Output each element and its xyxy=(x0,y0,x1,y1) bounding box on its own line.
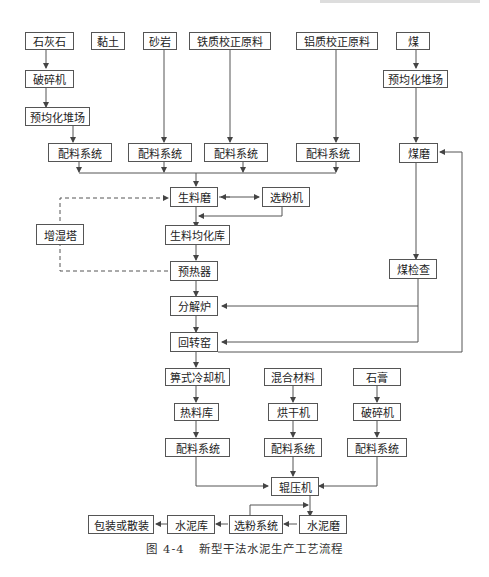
node-prehomogenization-1: 预均化堆场 xyxy=(25,107,90,126)
node-rotary-kiln: 回转窑 xyxy=(170,332,218,352)
node-coal-mill: 煤磨 xyxy=(399,143,438,163)
node-aluminum-corrective: 铝质校正原料 xyxy=(296,32,378,50)
node-batching-6: 配料系统 xyxy=(264,438,322,457)
node-roller-press: 辊压机 xyxy=(271,477,319,496)
node-rotary-kiln-label: 回转窑 xyxy=(178,334,211,350)
node-batching-1: 配料系统 xyxy=(48,143,112,162)
node-clay: 黏土 xyxy=(91,32,125,50)
node-batching-5: 配料系统 xyxy=(165,438,230,457)
node-coal-prehomogenization: 预均化堆场 xyxy=(383,70,448,88)
node-cement-silo: 水泥库 xyxy=(167,515,215,534)
figure-title: 新型干法水泥生产工艺流程 xyxy=(199,542,343,556)
node-limestone: 石灰石 xyxy=(25,32,74,50)
node-separator: 选粉机 xyxy=(262,187,310,207)
node-raw-homogenization-silo: 生料均化库 xyxy=(165,225,230,245)
node-batching-3: 配料系统 xyxy=(204,143,268,162)
node-coal: 煤 xyxy=(396,32,430,50)
node-mixed-material: 混合材料 xyxy=(264,368,322,386)
node-clinker-silo: 热料库 xyxy=(174,403,219,421)
figure-caption: 图 4-4 新型干法水泥生产工艺流程 xyxy=(0,540,489,556)
node-dryer: 烘干机 xyxy=(268,403,318,421)
node-sandstone: 砂岩 xyxy=(143,32,177,50)
figure-label: 图 4-4 xyxy=(146,542,184,556)
node-iron-corrective: 铁质校正原料 xyxy=(189,32,271,50)
node-humidifier-tower: 增湿塔 xyxy=(36,224,84,245)
node-gypsum: 石膏 xyxy=(353,368,401,386)
node-cement-mill: 水泥磨 xyxy=(299,515,347,534)
node-crusher-1: 破碎机 xyxy=(25,70,74,88)
node-calciner: 分解炉 xyxy=(170,296,218,316)
node-batching-2: 配料系统 xyxy=(128,143,192,162)
node-packing-or-bulk: 包装或散装 xyxy=(88,515,154,534)
node-crusher-2: 破碎机 xyxy=(353,403,401,421)
node-preheater: 预热器 xyxy=(170,261,218,281)
node-powder-separation-system: 选粉系统 xyxy=(229,515,283,534)
node-batching-4: 配料系统 xyxy=(296,143,360,162)
node-raw-mill: 生料磨 xyxy=(170,187,218,207)
node-batching-7: 配料系统 xyxy=(347,438,407,457)
node-coal-bin: 煤检查 xyxy=(389,259,437,279)
node-grate-cooler: 箅式冷却机 xyxy=(165,368,230,386)
